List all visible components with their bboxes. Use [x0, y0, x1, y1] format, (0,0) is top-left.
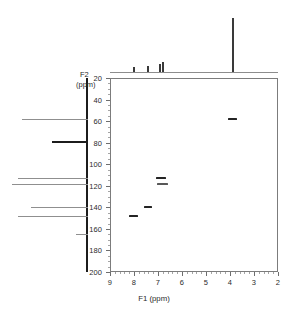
- y-tick-major: [106, 207, 110, 208]
- x-tick-minor: [163, 272, 164, 274]
- y-tick-major: [106, 121, 110, 122]
- y-tick-minor: [108, 110, 110, 111]
- y-tick-minor: [108, 240, 110, 241]
- y-tick-label: 40: [80, 96, 102, 105]
- x-tick-minor: [124, 272, 125, 274]
- y-tick-minor: [108, 105, 110, 106]
- x-tick-minor: [211, 272, 212, 274]
- x-tick-minor: [216, 272, 217, 274]
- x-tick-minor: [139, 272, 140, 274]
- nmr-spectrum-figure: 98765432 20406080100120140160180200 F2 (…: [0, 0, 308, 312]
- y-tick-label: 100: [80, 160, 102, 169]
- x-tick-minor: [187, 272, 188, 274]
- cross-peak[interactable]: [157, 183, 168, 185]
- x-tick-minor: [264, 272, 265, 274]
- x-tick-minor: [115, 272, 116, 274]
- x-tick-major: [110, 272, 111, 276]
- f2-projection-peak: [31, 207, 88, 208]
- x-tick-minor: [144, 272, 145, 274]
- cross-peak[interactable]: [228, 118, 237, 120]
- x-tick-minor: [235, 272, 236, 274]
- f1-projection-peak: [133, 67, 135, 72]
- x-tick-label: 3: [246, 278, 262, 287]
- x-tick-minor: [268, 272, 269, 274]
- y-tick-major: [106, 78, 110, 79]
- f1-projection-peak: [162, 62, 164, 72]
- y-tick-minor: [108, 245, 110, 246]
- y-tick-minor: [108, 127, 110, 128]
- y-tick-major: [106, 143, 110, 144]
- x-tick-label: 5: [198, 278, 214, 287]
- y-tick-minor: [108, 180, 110, 181]
- x-tick-major: [182, 272, 183, 276]
- y-tick-major: [106, 250, 110, 251]
- x-tick-minor: [148, 272, 149, 274]
- x-tick-minor: [153, 272, 154, 274]
- cross-peak[interactable]: [129, 215, 138, 217]
- y-tick-minor: [108, 94, 110, 95]
- y-tick-major: [106, 164, 110, 165]
- y-tick-minor: [108, 267, 110, 268]
- x-tick-minor: [172, 272, 173, 274]
- y-tick-minor: [108, 159, 110, 160]
- f1-projection-baseline: [110, 72, 278, 73]
- f1-projection-peak: [232, 18, 234, 72]
- x-tick-label: 6: [174, 278, 190, 287]
- f2-projection-spine: [86, 78, 88, 272]
- f1-projection-peak: [147, 66, 149, 72]
- f1-projection-peak: [159, 64, 161, 72]
- y-tick-minor: [108, 132, 110, 133]
- y-tick-major: [106, 100, 110, 101]
- f2-projection-peak: [18, 178, 88, 179]
- x-tick-minor: [177, 272, 178, 274]
- f2-projection-peak: [76, 234, 88, 235]
- x-tick-minor: [259, 272, 260, 274]
- y-tick-minor: [108, 197, 110, 198]
- y-axis-unit: (ppm): [76, 80, 96, 89]
- x-tick-minor: [129, 272, 130, 274]
- y-tick-minor: [108, 116, 110, 117]
- x-tick-major: [134, 272, 135, 276]
- x-tick-minor: [120, 272, 121, 274]
- y-tick-minor: [108, 153, 110, 154]
- y-tick-minor: [108, 234, 110, 235]
- x-tick-major: [278, 272, 279, 276]
- f2-projection-peak: [12, 184, 88, 185]
- x-tick-major: [230, 272, 231, 276]
- x-tick-minor: [225, 272, 226, 274]
- y-tick-minor: [108, 191, 110, 192]
- x-tick-major: [206, 272, 207, 276]
- x-tick-minor: [240, 272, 241, 274]
- x-tick-minor: [249, 272, 250, 274]
- x-tick-major: [158, 272, 159, 276]
- x-tick-minor: [168, 272, 169, 274]
- f2-projection-peak: [18, 216, 88, 217]
- y-tick-minor: [108, 261, 110, 262]
- cross-peak[interactable]: [144, 206, 152, 208]
- x-tick-label: 2: [270, 278, 286, 287]
- y-tick-label: 180: [80, 246, 102, 255]
- x-tick-minor: [192, 272, 193, 274]
- x-tick-minor: [201, 272, 202, 274]
- x-tick-minor: [196, 272, 197, 274]
- x-tick-minor: [273, 272, 274, 274]
- plot-area[interactable]: [110, 78, 278, 272]
- f2-projection-peak: [52, 141, 88, 143]
- y-tick-major: [106, 229, 110, 230]
- y-tick-minor: [108, 148, 110, 149]
- x-tick-label: 4: [222, 278, 238, 287]
- y-tick-major: [106, 272, 110, 273]
- x-tick-minor: [220, 272, 221, 274]
- x-tick-minor: [244, 272, 245, 274]
- y-tick-minor: [108, 218, 110, 219]
- y-tick-minor: [108, 175, 110, 176]
- y-tick-label: 200: [80, 268, 102, 277]
- y-axis-title: F2: [80, 70, 89, 79]
- y-tick-minor: [108, 89, 110, 90]
- x-axis-title: F1 (ppm): [0, 294, 308, 303]
- y-tick-minor: [108, 202, 110, 203]
- cross-peak[interactable]: [156, 177, 166, 179]
- y-tick-minor: [108, 256, 110, 257]
- y-tick-minor: [108, 213, 110, 214]
- y-tick-minor: [108, 224, 110, 225]
